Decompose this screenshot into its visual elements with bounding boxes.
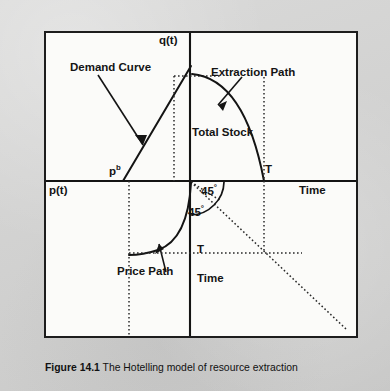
figure-number: Figure 14.1 xyxy=(45,362,100,373)
price-path-curve xyxy=(129,183,191,255)
backstop-price-base: p xyxy=(109,165,116,177)
axis-label-time-horizontal: Time xyxy=(299,185,326,197)
angle-label-lower: 45° xyxy=(188,205,204,218)
angle-upper-value: 45 xyxy=(201,185,214,197)
backstop-price-label: pb xyxy=(109,164,121,177)
price-path-arrowhead xyxy=(155,244,164,254)
figure-caption: Figure 14.1 The Hotelling model of resou… xyxy=(45,362,298,373)
extraction-path-label: Extraction Path xyxy=(211,67,295,79)
axis-label-price: p(t) xyxy=(49,185,68,197)
angle-upper-degree-sign: ° xyxy=(214,183,217,192)
demand-curve-label: Demand Curve xyxy=(70,62,151,74)
extraction-path-leader-line xyxy=(218,77,242,105)
axis-label-quantity: q(t) xyxy=(159,35,178,47)
angle-label-upper: 45° xyxy=(201,184,217,197)
axis-label-time-vertical: Time xyxy=(197,273,224,285)
demand-curve-line xyxy=(123,66,191,181)
demand-curve-leader-line xyxy=(98,75,143,145)
backstop-price-superscript: b xyxy=(116,163,121,172)
total-stock-label: Total Stock xyxy=(192,127,253,139)
terminal-time-label-lower: T xyxy=(197,244,204,256)
figure-caption-text: The Hotelling model of resource extracti… xyxy=(103,362,298,373)
figure-frame: q(t) p(t) Time Time pb T T Demand Curve … xyxy=(44,31,358,338)
angle-lower-value: 45 xyxy=(188,206,201,218)
price-path-label: Price Path xyxy=(117,266,173,278)
angle-lower-degree-sign: ° xyxy=(201,204,204,213)
terminal-time-label-upper: T xyxy=(265,164,272,176)
